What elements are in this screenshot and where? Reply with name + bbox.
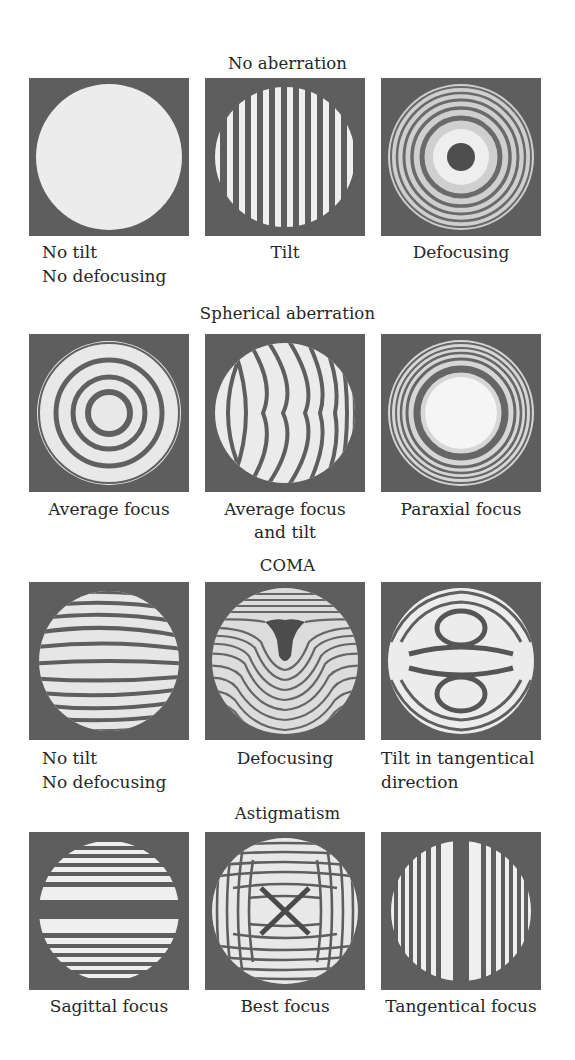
caption-tilt-tangentical-line1: Tilt in tangentical xyxy=(381,746,534,770)
caption-paraxial-focus: Paraxial focus xyxy=(373,497,549,521)
interferogram-uniform-disk xyxy=(29,78,189,236)
section-title-coma: COMA xyxy=(0,556,575,576)
interferogram-coma-defocusing xyxy=(205,582,365,740)
caption-coma-no-tilt-line2: No defocusing xyxy=(42,770,166,794)
caption-average-focus-tilt-line2: and tilt xyxy=(197,520,373,544)
section-title-spherical-aberration: Spherical aberration xyxy=(0,304,575,324)
interferogram-spherical-paraxial-focus xyxy=(381,334,541,492)
caption-tilt: Tilt xyxy=(197,240,373,264)
interferogram-defocus-rings xyxy=(381,78,541,236)
interferogram-astigmatism-tangential xyxy=(381,832,541,990)
interferogram-coma-no-tilt xyxy=(29,582,189,740)
caption-no-tilt-line2: No defocusing xyxy=(42,264,166,288)
caption-no-tilt-line1: No tilt xyxy=(42,240,97,264)
caption-average-focus-tilt-line1: Average focus xyxy=(197,497,373,521)
caption-average-focus: Average focus xyxy=(21,497,197,521)
interferogram-astigmatism-sagittal xyxy=(29,832,189,990)
caption-coma-defocusing: Defocusing xyxy=(197,746,373,770)
section-title-no-aberration: No aberration xyxy=(0,54,575,74)
caption-sagittal-focus: Sagittal focus xyxy=(21,994,197,1018)
section-title-astigmatism: Astigmatism xyxy=(0,804,575,824)
interferogram-tilt-fringes xyxy=(205,78,365,236)
interferogram-astigmatism-best-focus xyxy=(205,832,365,990)
interferogram-spherical-average-focus xyxy=(29,334,189,492)
interferogram-spherical-focus-tilt xyxy=(205,334,365,492)
caption-defocusing: Defocusing xyxy=(373,240,549,264)
caption-tilt-tangentical-line2: direction xyxy=(381,770,458,794)
caption-best-focus: Best focus xyxy=(197,994,373,1018)
interferogram-coma-tangential-tilt xyxy=(381,582,541,740)
caption-coma-no-tilt-line1: No tilt xyxy=(42,746,97,770)
caption-tangentical-focus: Tangentical focus xyxy=(373,994,549,1018)
